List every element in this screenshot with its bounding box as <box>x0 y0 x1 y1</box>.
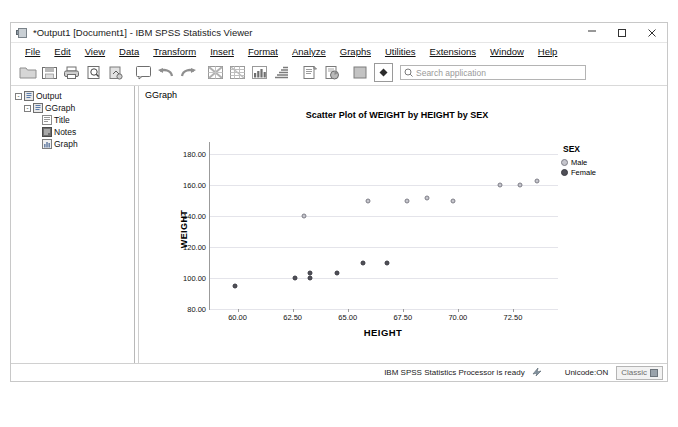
y-axis-tick-label: 80.00 <box>187 305 206 314</box>
grid-line <box>210 247 558 248</box>
data-point-male[interactable] <box>497 183 502 188</box>
output-viewer[interactable]: GGraph Scatter Plot of WEIGHT by HEIGHT … <box>139 86 667 363</box>
status-processor-text: IBM SPSS Statistics Processor is ready <box>384 368 525 377</box>
y-axis-tick-label: 180.00 <box>183 150 206 159</box>
undo-icon[interactable] <box>155 62 176 83</box>
menu-format[interactable]: Format <box>241 45 285 58</box>
x-axis-tick-label: 65.00 <box>338 313 357 322</box>
grid-line <box>210 185 558 186</box>
menu-edit[interactable]: Edit <box>47 45 77 58</box>
plot-area: 80.00100.00120.00140.00160.00180.0060.00… <box>209 142 557 310</box>
title-icon <box>41 115 52 125</box>
search-icon <box>404 68 413 77</box>
goto-data-icon[interactable] <box>205 62 226 83</box>
status-bar: IBM SPSS Statistics Processor is ready U… <box>11 363 667 381</box>
data-point-female[interactable] <box>334 271 339 276</box>
title-bar: *Output1 [Document1] - IBM SPSS Statisti… <box>11 23 667 43</box>
expand-toggle-output[interactable]: - <box>14 93 23 100</box>
print-icon[interactable] <box>61 62 82 83</box>
dialog-recall-icon[interactable] <box>133 62 154 83</box>
grid-line <box>210 216 558 217</box>
open-file-icon[interactable] <box>17 62 38 83</box>
run-descriptives-icon[interactable] <box>271 62 292 83</box>
data-point-male[interactable] <box>451 198 456 203</box>
x-axis-tick-label: 67.50 <box>393 313 412 322</box>
x-axis-tick-label: 62.50 <box>283 313 302 322</box>
menu-view[interactable]: View <box>78 45 112 58</box>
menu-help[interactable]: Help <box>531 45 565 58</box>
y-axis-tick-label: 160.00 <box>183 181 206 190</box>
legend-marker-female <box>561 169 568 176</box>
outline-item-output[interactable]: - Output <box>14 90 134 102</box>
data-point-female[interactable] <box>233 283 238 288</box>
redo-icon[interactable] <box>177 62 198 83</box>
x-axis-tick-label: 70.00 <box>448 313 467 322</box>
data-point-female[interactable] <box>308 271 313 276</box>
outline-item-graph[interactable]: Graph <box>14 138 134 150</box>
menu-analyze[interactable]: Analyze <box>285 45 333 58</box>
outline-item-ggraph[interactable]: - GGraph <box>14 102 134 114</box>
insert-text-icon[interactable] <box>299 62 320 83</box>
menu-extensions[interactable]: Extensions <box>423 45 483 58</box>
y-axis-tick-label: 120.00 <box>183 243 206 252</box>
minimize-icon[interactable] <box>577 23 607 43</box>
processor-ready-icon <box>531 366 543 379</box>
data-point-male[interactable] <box>535 178 540 183</box>
spss-viewer-window: *Output1 [Document1] - IBM SPSS Statisti… <box>10 22 668 382</box>
data-point-female[interactable] <box>385 260 390 265</box>
data-point-female[interactable] <box>361 260 366 265</box>
legend-marker-male <box>561 159 568 166</box>
grid-line <box>210 278 558 279</box>
status-mode[interactable]: Classic <box>616 366 663 380</box>
x-axis-tick-mark <box>348 309 349 312</box>
outline-label-graph: Graph <box>54 139 78 149</box>
close-icon[interactable] <box>637 23 667 43</box>
data-point-female[interactable] <box>308 276 313 281</box>
maximize-icon[interactable] <box>607 23 637 43</box>
expand-toggle-ggraph[interactable]: - <box>23 105 32 112</box>
menu-insert[interactable]: Insert <box>203 45 241 58</box>
outline-item-notes[interactable]: Notes <box>14 126 134 138</box>
promote-icon[interactable] <box>374 63 393 82</box>
menu-graphs[interactable]: Graphs <box>333 45 378 58</box>
grid-line <box>210 309 558 310</box>
status-unicode: Unicode:ON <box>557 366 617 380</box>
outline-item-title[interactable]: Title <box>14 114 134 126</box>
goto-case-icon[interactable] <box>227 62 248 83</box>
search-placeholder: Search application <box>416 68 486 78</box>
ggraph-icon <box>32 103 43 113</box>
chart-title: Scatter Plot of WEIGHT by HEIGHT by SEX <box>147 110 647 120</box>
x-axis-tick-mark <box>293 309 294 312</box>
outline-label-title: Title <box>54 115 70 125</box>
data-point-male[interactable] <box>365 198 370 203</box>
legend-label-male: Male <box>571 158 587 167</box>
outline-label-output: Output <box>36 91 62 101</box>
data-point-male[interactable] <box>405 198 410 203</box>
data-point-male[interactable] <box>425 195 430 200</box>
x-axis-tick-mark <box>458 309 459 312</box>
y-axis-tick-label: 100.00 <box>183 274 206 283</box>
search-input[interactable]: Search application <box>400 65 586 80</box>
classic-mode-icon <box>650 369 658 377</box>
print-preview-icon[interactable] <box>83 62 104 83</box>
menu-file[interactable]: File <box>18 45 47 58</box>
menu-transform[interactable]: Transform <box>146 45 203 58</box>
data-point-female[interactable] <box>292 276 297 281</box>
save-icon[interactable] <box>39 62 60 83</box>
data-point-male[interactable] <box>301 214 306 219</box>
window-title: *Output1 [Document1] - IBM SPSS Statisti… <box>33 27 252 38</box>
data-point-male[interactable] <box>517 183 522 188</box>
variables-icon[interactable] <box>249 62 270 83</box>
menu-data[interactable]: Data <box>112 45 146 58</box>
x-axis-tick-label: 72.50 <box>504 313 523 322</box>
insert-object-icon[interactable] <box>321 62 342 83</box>
menu-window[interactable]: Window <box>483 45 531 58</box>
show-hide-icon[interactable] <box>349 62 370 83</box>
legend-label-female: Female <box>571 168 596 177</box>
menu-utilities[interactable]: Utilities <box>378 45 423 58</box>
export-icon[interactable] <box>105 62 126 83</box>
output-icon <box>23 91 34 101</box>
scatter-chart[interactable]: Scatter Plot of WEIGHT by HEIGHT by SEX … <box>147 104 647 354</box>
legend-title: SEX <box>561 144 639 154</box>
spss-viewer-icon <box>16 27 28 39</box>
